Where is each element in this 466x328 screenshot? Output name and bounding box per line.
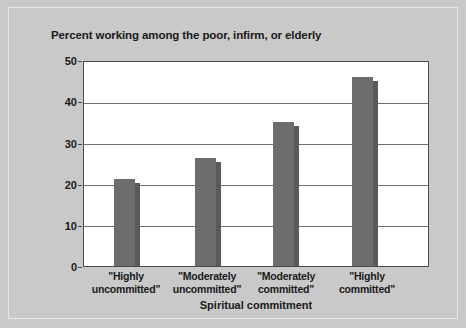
bar-front-1 bbox=[195, 158, 216, 266]
y-axis: 50 40 30 20 10 0 bbox=[45, 53, 77, 275]
bar-side-2 bbox=[294, 126, 299, 266]
bar-group-1[interactable] bbox=[195, 62, 221, 266]
x-category-line-3-0: "Highly bbox=[323, 270, 411, 283]
x-category-line-3-1: committed" bbox=[323, 283, 411, 296]
bar-front-0 bbox=[114, 179, 135, 266]
bar-side-0 bbox=[135, 183, 140, 266]
chart-frame: Percent working among the poor, infirm, … bbox=[8, 7, 458, 319]
x-category-line-2-0: "Moderately bbox=[241, 270, 331, 283]
x-category-line-0-0: "Highly bbox=[81, 270, 171, 283]
bar-group-3[interactable] bbox=[352, 62, 378, 266]
x-category-label-1: "Moderately uncommitted" bbox=[160, 270, 254, 295]
y-tick-label-40: 40 bbox=[65, 97, 77, 108]
x-category-label-0: "Highly uncommitted" bbox=[81, 270, 171, 295]
y-tick-mark-10 bbox=[78, 226, 82, 227]
y-tick-label-10: 10 bbox=[65, 221, 77, 232]
bar-front-2 bbox=[273, 122, 294, 266]
x-category-label-3: "Highly committed" bbox=[323, 270, 411, 295]
y-tick-mark-40 bbox=[78, 102, 82, 103]
y-tick-mark-20 bbox=[78, 185, 82, 186]
y-tick-label-30: 30 bbox=[65, 139, 77, 150]
bar-front-3 bbox=[352, 77, 373, 266]
x-axis-title: Spiritual commitment bbox=[83, 299, 429, 311]
bar-group-0[interactable] bbox=[114, 62, 140, 266]
x-category-label-2: "Moderately committed" bbox=[241, 270, 331, 295]
x-category-line-2-1: committed" bbox=[241, 283, 331, 296]
bar-side-1 bbox=[216, 162, 221, 266]
x-category-line-1-1: uncommitted" bbox=[160, 283, 254, 296]
y-tick-label-50: 50 bbox=[65, 56, 77, 67]
y-tick-label-20: 20 bbox=[65, 180, 77, 191]
bar-side-3 bbox=[373, 81, 378, 266]
y-tick-mark-50 bbox=[78, 61, 82, 62]
y-tick-mark-30 bbox=[78, 144, 82, 145]
plot-area bbox=[83, 61, 429, 267]
y-tick-mark-0 bbox=[78, 267, 82, 268]
x-category-line-0-1: uncommitted" bbox=[81, 283, 171, 296]
bar-group-2[interactable] bbox=[273, 62, 299, 266]
y-tick-label-0: 0 bbox=[71, 262, 77, 273]
x-category-line-1-0: "Moderately bbox=[160, 270, 254, 283]
chart-title: Percent working among the poor, infirm, … bbox=[51, 29, 321, 41]
x-axis: "Highly uncommitted" "Moderately uncommi… bbox=[83, 270, 429, 302]
